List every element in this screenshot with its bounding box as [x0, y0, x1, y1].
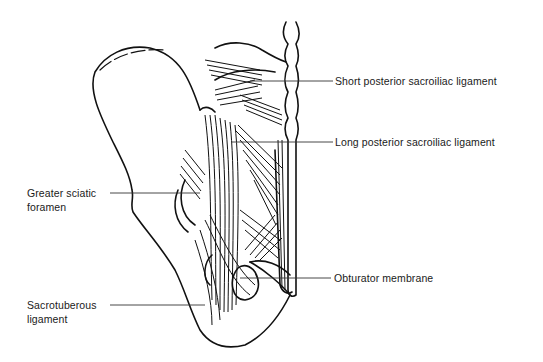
sacral-column — [284, 22, 299, 296]
iliac-crest-inner — [100, 50, 165, 70]
leader-lines — [110, 81, 333, 305]
label-sacrotuberous-ligament: Sacrotuberous ligament — [27, 298, 97, 326]
label-long-posterior-sacroiliac-ligament: Long posterior sacroiliac ligament — [335, 135, 495, 149]
label-obturator-membrane: Obturator membrane — [334, 271, 433, 285]
label-greater-sciatic-foramen: Greater sciatic foramen — [27, 186, 96, 214]
label-short-posterior-sacroiliac-ligament: Short posterior sacroiliac ligament — [335, 74, 497, 88]
ilium-outline — [93, 47, 290, 347]
